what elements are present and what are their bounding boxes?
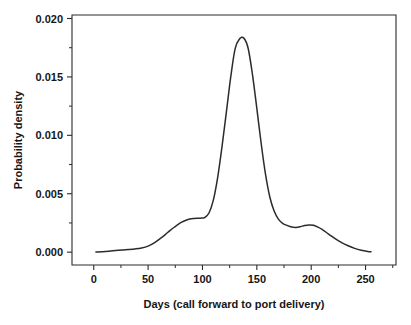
cropped-title-fragment [78,0,278,5]
x-tick-label: 0 [91,273,97,285]
y-axis-title: Probability density [12,90,24,189]
y-tick-label: 0.005 [35,188,63,200]
x-tick-label: 100 [193,273,211,285]
x-axis-title: Days (call forward to port delivery) [144,298,325,310]
y-tick-label: 0.015 [35,71,63,83]
probability-density-figure: 050100150200250 0.0000.0050.0100.0150.02… [0,0,411,325]
y-tick-label: 0.000 [35,246,63,258]
x-tick-label: 150 [248,273,266,285]
density-line-chart: 050100150200250 0.0000.0050.0100.0150.02… [0,0,411,325]
x-tick-label: 250 [356,273,374,285]
y-tick-label: 0.010 [35,129,63,141]
y-tick-label: 0.020 [35,13,63,25]
x-tick-label: 200 [302,273,320,285]
x-tick-label: 50 [142,273,154,285]
